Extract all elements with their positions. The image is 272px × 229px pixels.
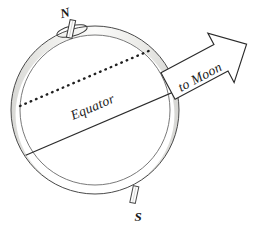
south-pole-assembly: S — [130, 186, 142, 224]
sphere-rim-band-right — [95, 26, 179, 194]
north-pole-label: N — [58, 4, 72, 21]
south-pole-label: S — [134, 209, 141, 224]
equator-label: Equator — [67, 91, 117, 123]
diagram-canvas: N S Equator to Moon — [0, 0, 272, 229]
earth-moon-diagram: N S Equator to Moon — [0, 0, 272, 229]
